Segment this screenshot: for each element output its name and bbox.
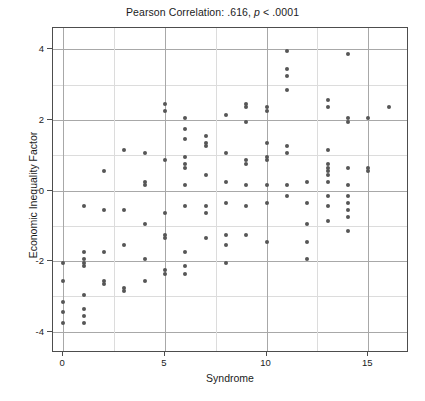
data-point — [82, 314, 86, 318]
data-point — [102, 208, 106, 212]
data-point — [183, 204, 187, 208]
data-point — [285, 88, 289, 92]
x-tick-label: 10 — [260, 357, 271, 368]
data-point — [224, 113, 228, 117]
data-point — [326, 105, 330, 109]
data-point — [143, 151, 147, 155]
data-point — [224, 233, 228, 237]
scatter-plot-figure: Pearson Correlation: .616, p < .0001 051… — [0, 0, 425, 401]
data-point — [163, 109, 167, 113]
data-point — [82, 250, 86, 254]
data-point — [183, 116, 187, 120]
data-point — [366, 169, 370, 173]
data-point — [122, 243, 126, 247]
data-point — [346, 183, 350, 187]
data-point — [163, 102, 167, 106]
data-points-layer — [53, 28, 407, 351]
data-point — [61, 279, 65, 283]
x-tick-label: 0 — [60, 357, 65, 368]
x-tick-label: 5 — [161, 357, 166, 368]
x-tick-mark — [62, 352, 63, 356]
data-point — [305, 180, 309, 184]
data-point — [224, 243, 228, 247]
data-point — [285, 74, 289, 78]
y-axis-label: Economic Inequality Factor — [27, 110, 39, 280]
chart-title-suffix: < .0001 — [260, 6, 299, 18]
data-point — [204, 134, 208, 138]
data-point — [285, 151, 289, 155]
data-point — [163, 236, 167, 240]
data-point — [346, 215, 350, 219]
data-point — [143, 257, 147, 261]
data-point — [183, 272, 187, 276]
data-point — [61, 321, 65, 325]
data-point — [346, 201, 350, 205]
data-point — [163, 272, 167, 276]
data-point — [346, 52, 350, 56]
data-point — [102, 250, 106, 254]
y-tick-mark — [47, 48, 52, 49]
data-point — [285, 67, 289, 71]
data-point — [326, 173, 330, 177]
data-point — [346, 208, 350, 212]
data-point — [265, 240, 269, 244]
data-point — [265, 141, 269, 145]
data-point — [61, 310, 65, 314]
data-point — [183, 137, 187, 141]
data-point — [326, 204, 330, 208]
data-point — [143, 183, 147, 187]
data-point — [183, 127, 187, 131]
data-point — [183, 250, 187, 254]
data-point — [244, 204, 248, 208]
data-point — [285, 144, 289, 148]
data-point — [285, 194, 289, 198]
x-tick-mark — [164, 352, 165, 356]
x-tick-mark — [367, 352, 368, 356]
data-point — [122, 148, 126, 152]
data-point — [346, 194, 350, 198]
data-point — [163, 158, 167, 162]
data-point — [326, 180, 330, 184]
y-tick-mark — [47, 190, 52, 191]
data-point — [122, 208, 126, 212]
data-point — [224, 261, 228, 265]
data-point — [82, 293, 86, 297]
data-point — [346, 166, 350, 170]
chart-title: Pearson Correlation: .616, p < .0001 — [0, 6, 425, 18]
data-point — [102, 169, 106, 173]
x-tick-mark — [266, 352, 267, 356]
data-point — [285, 183, 289, 187]
data-point — [183, 155, 187, 159]
data-point — [244, 183, 248, 187]
data-point — [326, 194, 330, 198]
data-point — [204, 204, 208, 208]
data-point — [143, 279, 147, 283]
data-point — [122, 289, 126, 293]
y-tick-mark — [47, 119, 52, 120]
data-point — [326, 148, 330, 152]
data-point — [346, 229, 350, 233]
data-point — [61, 300, 65, 304]
data-point — [102, 282, 106, 286]
data-point — [183, 183, 187, 187]
data-point — [183, 166, 187, 170]
data-point — [204, 211, 208, 215]
data-point — [244, 105, 248, 109]
data-point — [265, 183, 269, 187]
data-point — [326, 98, 330, 102]
data-point — [204, 173, 208, 177]
x-axis-label: Syndrome — [52, 372, 408, 384]
data-point — [183, 264, 187, 268]
chart-title-prefix: Pearson Correlation: .616, — [126, 6, 254, 18]
data-point — [265, 109, 269, 113]
data-point — [305, 257, 309, 261]
data-point — [163, 211, 167, 215]
data-point — [82, 264, 86, 268]
x-tick-label: 15 — [362, 357, 373, 368]
data-point — [366, 116, 370, 120]
data-point — [305, 201, 309, 205]
data-point — [244, 120, 248, 124]
data-point — [224, 151, 228, 155]
data-point — [244, 233, 248, 237]
data-point — [82, 321, 86, 325]
